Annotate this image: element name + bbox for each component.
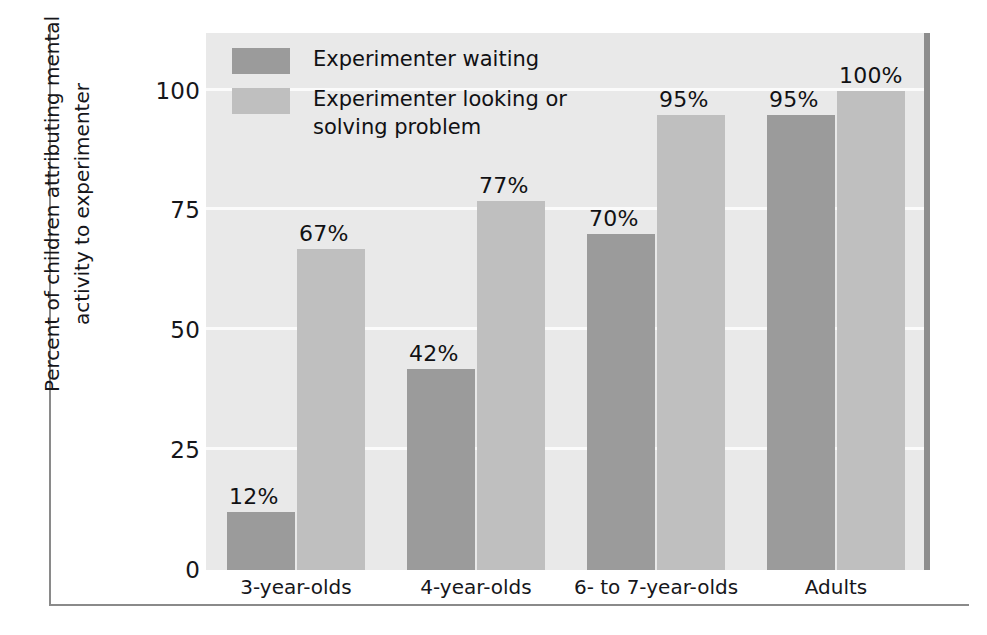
y-tick-label-100: 100 xyxy=(156,78,201,104)
bar-value-label: 95% xyxy=(659,87,709,112)
y-axis-title: Percent of children attributing mental a… xyxy=(37,4,97,404)
bar[interactable] xyxy=(587,234,655,570)
bar-value-label: 77% xyxy=(479,173,529,198)
bar-value-label: 95% xyxy=(769,87,819,112)
legend-item[interactable]: Experimenter looking or solving problem xyxy=(232,85,632,141)
plot-right-border xyxy=(924,33,930,570)
bar-value-label: 70% xyxy=(589,206,639,231)
bar-value-label: 42% xyxy=(409,341,459,366)
bar-value-label: 67% xyxy=(299,221,349,246)
bar[interactable] xyxy=(407,369,475,570)
chart-legend: Experimenter waitingExperimenter looking… xyxy=(232,45,632,152)
bar-value-label: 12% xyxy=(229,484,279,509)
bar[interactable] xyxy=(837,91,905,570)
x-tick-label: 3-year-olds xyxy=(240,575,351,599)
figure-frame: Percent of children attributing mental a… xyxy=(0,0,987,635)
y-axis-tick-labels: 0255075100 xyxy=(130,33,200,570)
bar[interactable] xyxy=(297,249,365,570)
x-axis-tick-labels: 3-year-olds4-year-olds6- to 7-year-oldsA… xyxy=(206,575,926,609)
x-tick-label: 4-year-olds xyxy=(420,575,531,599)
y-tick-label-25: 25 xyxy=(170,437,200,463)
legend-label: Experimenter waiting xyxy=(313,45,539,73)
legend-label: Experimenter looking or solving problem xyxy=(313,85,567,141)
y-tick-label-0: 0 xyxy=(185,557,200,583)
bar[interactable] xyxy=(477,201,545,570)
bar[interactable] xyxy=(767,115,835,570)
bar-value-label: 100% xyxy=(839,63,903,88)
legend-swatch xyxy=(232,48,290,74)
bar[interactable] xyxy=(657,115,725,570)
bar-group: 95%100% xyxy=(746,33,926,570)
legend-swatch xyxy=(232,88,290,114)
y-tick-label-75: 75 xyxy=(170,197,200,223)
y-tick-label-50: 50 xyxy=(170,317,200,343)
legend-item[interactable]: Experimenter waiting xyxy=(232,45,632,74)
x-tick-label: Adults xyxy=(805,575,868,599)
x-tick-label: 6- to 7-year-olds xyxy=(574,575,738,599)
bar[interactable] xyxy=(227,512,295,570)
